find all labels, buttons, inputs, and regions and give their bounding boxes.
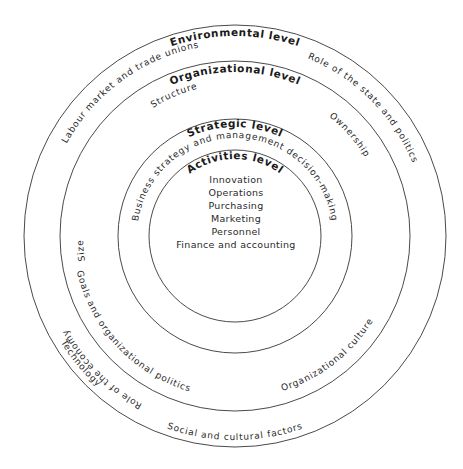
ownership-label: Ownership — [328, 110, 372, 159]
activity-personnel: Personnel — [211, 226, 260, 237]
activity-marketing: Marketing — [211, 213, 261, 224]
economy-label: Role of the economy — [60, 328, 143, 411]
organizational-culture-label: Organizational culture — [280, 316, 375, 393]
activities-level-title: Activities level — [184, 149, 286, 176]
activity-finance: Finance and accounting — [176, 239, 295, 250]
nested-levels-diagram: Environmental level Organizational level… — [0, 0, 463, 469]
activity-operations: Operations — [208, 187, 263, 198]
activity-purchasing: Purchasing — [209, 200, 264, 211]
social-cultural-label: Social and cultural factors — [166, 421, 304, 442]
size-label: Size — [75, 239, 87, 262]
organizational-level-title: Organizational level — [168, 62, 303, 87]
activity-innovation: Innovation — [209, 174, 262, 185]
